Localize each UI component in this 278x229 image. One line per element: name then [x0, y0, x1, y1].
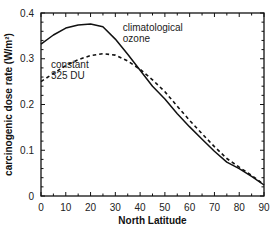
x-tick-label: 0 [38, 202, 44, 213]
x-tick-label: 30 [110, 202, 122, 213]
annotation-constant-325du: 325 DU [51, 70, 85, 81]
x-tick-label: 80 [234, 202, 246, 213]
x-tick-label: 70 [209, 202, 221, 213]
chart: 010203040506070809000.10.20.30.4 climato… [0, 0, 278, 229]
plot-lines [41, 24, 264, 185]
x-tick-label: 40 [135, 202, 147, 213]
annotation-constant-325du: constant [51, 59, 89, 70]
x-tick-label: 60 [184, 202, 196, 213]
x-tick-label: 10 [60, 202, 72, 213]
x-tick-label: 20 [85, 202, 97, 213]
plot-frame [41, 13, 264, 196]
annotation-climatological-ozone: ozone [123, 33, 151, 44]
y-axis-title: carcinogenic dose rate (W/m²) [3, 33, 14, 176]
x-tick-label: 90 [258, 202, 270, 213]
y-tick-label: 0.3 [20, 53, 34, 64]
y-tick-label: 0.4 [20, 8, 34, 19]
y-tick-label: 0.1 [20, 145, 34, 156]
series-climatological-ozone-line [41, 24, 264, 185]
axis-ticks [41, 13, 264, 196]
x-tick-label: 50 [159, 202, 171, 213]
annotations: climatologicalozoneconstant325 DU [51, 22, 183, 81]
y-tick-label: 0 [28, 191, 34, 202]
y-tick-label: 0.2 [20, 99, 34, 110]
x-axis-title: North Latitude [118, 215, 187, 226]
annotation-climatological-ozone: climatological [123, 22, 183, 33]
